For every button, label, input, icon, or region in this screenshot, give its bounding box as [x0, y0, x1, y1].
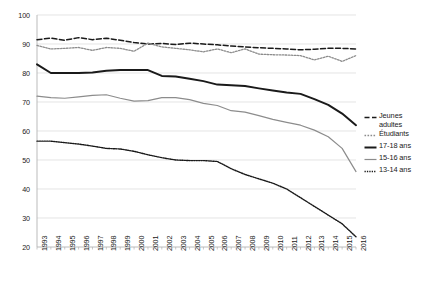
x-tick-label: 2010 [276, 236, 285, 251]
legend-label: Étudiants [379, 130, 409, 139]
x-tick-label: 2004 [193, 236, 202, 251]
y-tick-label: 50 [6, 156, 30, 165]
x-tick-label: 1998 [109, 236, 118, 251]
y-tick-label: 60 [6, 127, 30, 136]
chart-legend: Jeunes adultesÉtudiants17-18 ans15-16 an… [364, 112, 436, 178]
x-tick-label: 2007 [234, 236, 243, 251]
x-tick-label: 2015 [345, 236, 354, 251]
x-tick-label: 2006 [220, 236, 229, 251]
x-tick-label: 1997 [96, 236, 105, 251]
x-tick-label: 1999 [123, 236, 132, 251]
y-tick-label: 100 [6, 11, 30, 20]
series-line-3 [37, 64, 356, 125]
x-tick-label: 2001 [151, 236, 160, 251]
y-tick-label: 40 [6, 185, 30, 194]
y-tick-label: 70 [6, 98, 30, 107]
legend-label: Jeunes adultes [379, 112, 402, 129]
x-tick-label: 2014 [331, 236, 340, 251]
legend-swatch-icon [364, 130, 377, 141]
y-tick-label: 30 [6, 214, 30, 223]
x-tick-label: 2012 [304, 236, 313, 251]
y-tick-label: 80 [6, 69, 30, 78]
x-tick-label: 2009 [262, 236, 271, 251]
series-line-2 [37, 43, 356, 61]
legend-label: 13-14 ans [379, 166, 411, 175]
legend-swatch-icon [364, 154, 377, 165]
legend-item[interactable]: Étudiants [364, 130, 436, 141]
x-tick-label: 2003 [179, 236, 188, 251]
x-tick-label: 2013 [317, 236, 326, 251]
y-tick-label: 90 [6, 40, 30, 49]
x-tick-label: 2011 [290, 236, 299, 251]
x-tick-label: 1994 [54, 236, 63, 251]
legend-item[interactable]: 13-14 ans [364, 166, 436, 177]
legend-swatch-icon [364, 166, 377, 177]
legend-swatch-icon [364, 112, 377, 123]
data-series-group [37, 38, 356, 237]
legend-swatch-icon [364, 142, 377, 153]
x-tick-label: 2000 [137, 236, 146, 251]
x-tick-label: 2002 [165, 236, 174, 251]
x-tick-label: 1996 [82, 236, 91, 251]
x-tick-label: 1993 [40, 236, 49, 251]
legend-item[interactable]: Jeunes adultes [364, 112, 436, 129]
x-tick-label: 1995 [68, 236, 77, 251]
y-tick-label: 20 [6, 243, 30, 252]
x-tick-label: 2008 [248, 236, 257, 251]
legend-label: 17-18 ans [379, 142, 411, 151]
x-tick-label: 2005 [207, 236, 216, 251]
legend-item[interactable]: 17-18 ans [364, 142, 436, 153]
legend-item[interactable]: 15-16 ans [364, 154, 436, 165]
line-chart: 2030405060708090100 19931994199519961997… [0, 0, 436, 281]
x-tick-label: 2016 [359, 236, 368, 251]
legend-label: 15-16 ans [379, 154, 411, 163]
